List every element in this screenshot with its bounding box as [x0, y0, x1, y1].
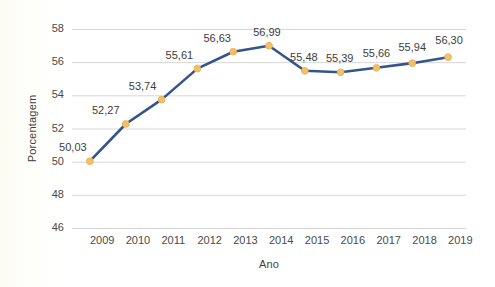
- y-axis-title: Porcentagem: [26, 95, 38, 163]
- data-point-label: 50,03: [59, 141, 87, 153]
- data-point-marker: [373, 64, 380, 71]
- data-point-marker: [337, 69, 344, 76]
- data-point-marker: [87, 158, 94, 165]
- data-point-label: 55,48: [290, 51, 318, 63]
- data-point-label: 52,27: [92, 104, 120, 116]
- data-point-marker: [230, 48, 237, 55]
- data-point-marker: [266, 42, 273, 49]
- y-tick-label: 52: [52, 122, 64, 134]
- data-point-label: 55,66: [363, 47, 391, 59]
- y-tick-label: 56: [52, 55, 64, 67]
- y-tick-label: 58: [52, 22, 64, 34]
- data-point-label: 56,30: [435, 34, 463, 46]
- data-point-marker: [301, 67, 308, 74]
- data-point-marker: [158, 96, 165, 103]
- x-axis-title: Ano: [259, 258, 279, 270]
- y-tick-label: 48: [52, 188, 64, 200]
- y-tick-label: 54: [52, 88, 64, 100]
- data-point-label: 55,94: [399, 41, 427, 53]
- chart-container: Porcentagem Ano 46485052545658 200920102…: [0, 0, 495, 287]
- data-point-marker: [409, 60, 416, 67]
- y-tick-label: 50: [52, 155, 64, 167]
- data-point-label: 55,39: [326, 52, 354, 64]
- data-point-label: 55,61: [166, 49, 194, 61]
- data-point-marker: [122, 121, 129, 128]
- data-point-marker: [445, 54, 452, 61]
- data-point-label: 56,99: [253, 26, 281, 38]
- y-tick-label: 46: [52, 221, 64, 233]
- data-point-marker: [194, 65, 201, 72]
- data-point-label: 56,63: [203, 32, 231, 44]
- data-point-label: 53,74: [129, 80, 157, 92]
